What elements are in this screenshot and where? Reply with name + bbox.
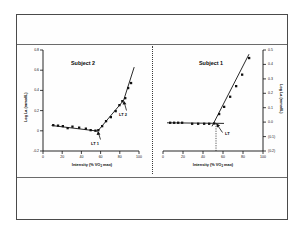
subject-2-xtick-5: 100 [134, 155, 144, 159]
subject-1-xtick-2: 40 [198, 155, 208, 159]
subject-1-title: Subject 1 [199, 60, 223, 66]
subject-2-ytick-4: 0 [26, 129, 39, 133]
subject-2-xtick-3: 60 [96, 155, 106, 159]
subject-1-xtick-0: 0 [158, 155, 168, 159]
panel-subject-1: Subject 1 0.5 0.4 0.3 0.2 0.1 0.0 (0.1) … [155, 44, 287, 177]
subject-1-ytick-0: 0.5 [268, 48, 273, 52]
subject-1-xtick-3: 60 [218, 155, 228, 159]
subject-1-x-axis-title: Intensity (% VO2 max) [174, 162, 252, 168]
x-title-pre-r: Intensity (% VO [193, 162, 222, 167]
subject-1-xtick-5: 100 [258, 155, 268, 159]
subject-2-lt1-label: LT 1 [91, 141, 99, 146]
subject-2-x-axis-title: Intensity (% VO2 max) [53, 162, 131, 168]
plot-area: Subject 2 0.8 0.6 0.4 0.2 0 -0.2 0 20 40… [17, 44, 287, 177]
subject-1-ytick-1: 0.4 [268, 62, 273, 66]
subject-1-ytick-4: 0.1 [268, 106, 273, 110]
subject-1-ytick-3: 0.2 [268, 91, 273, 95]
figure-frame: Subject 2 0.8 0.6 0.4 0.2 0 -0.2 0 20 40… [16, 14, 288, 220]
subject-1-ytick-5: 0.0 [268, 120, 273, 124]
subject-1-xtick-1: 20 [178, 155, 188, 159]
subject-1-ytick-7: (0.2) [268, 149, 275, 153]
x-title-post-r: max) [223, 162, 233, 167]
subject-2-lt2-label: LT 2 [119, 112, 127, 117]
subject-1-y-axis-title: Log La (mmol/L) [279, 84, 283, 114]
subject-2-title: Subject 2 [71, 60, 95, 66]
subject-1-ytick-2: 0.3 [268, 77, 273, 81]
panel-divider-dotted [152, 46, 153, 174]
panel-subject-2: Subject 2 0.8 0.6 0.4 0.2 0 -0.2 0 20 40… [19, 44, 151, 177]
subject-2-xtick-1: 20 [57, 155, 67, 159]
subject-2-ytick-0: 0.8 [26, 48, 39, 52]
subject-2-xtick-2: 40 [76, 155, 86, 159]
subject-2-xtick-0: 0 [38, 155, 48, 159]
x-title-pre: Intensity (% VO [72, 162, 101, 167]
subject-2-ytick-5: -0.2 [26, 149, 39, 153]
subject-1-xtick-4: 80 [238, 155, 248, 159]
subject-2-y-axis-title: Log La (mmol/L) [24, 92, 28, 122]
subject-2-ytick-1: 0.6 [26, 68, 39, 72]
frame-divider-bottom [17, 177, 287, 178]
subject-1-lt-label: LT [225, 131, 230, 136]
subject-2-xtick-4: 80 [115, 155, 125, 159]
x-title-post: max) [102, 162, 112, 167]
subject-1-ytick-6: (0.1) [268, 135, 275, 139]
